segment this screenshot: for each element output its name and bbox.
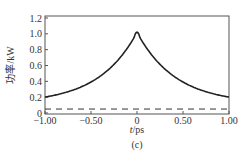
y-tick-label: 0 [37, 108, 42, 119]
y-tick-label: 0.2 [30, 92, 43, 103]
figure-caption: (c) [131, 139, 142, 151]
x-tick-label: 1.00 [220, 115, 238, 126]
y-tick-label: 1.2 [30, 13, 43, 24]
y-tick-label: 1.0 [30, 28, 43, 39]
y-tick-label: 0.4 [30, 76, 43, 87]
x-tick-label: −0.50 [79, 115, 102, 126]
y-tick-label: 0.8 [30, 44, 43, 55]
y-axis-label: 功率/kW [4, 46, 16, 84]
power-curve [45, 32, 229, 97]
y-tick-label: 0.6 [30, 60, 43, 71]
x-axis-label: t/ps [130, 124, 145, 135]
plot-frame [45, 16, 229, 114]
x-tick-label: 0.50 [174, 115, 192, 126]
chart: −1.00−0.5000.501.0000.20.40.60.81.01.2 t… [0, 0, 247, 159]
